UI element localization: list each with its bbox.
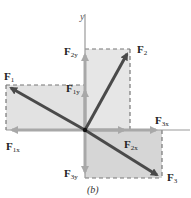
label-f1x: F1x	[6, 141, 20, 154]
label-f3y: F3y	[64, 168, 78, 181]
label-f2: F2	[137, 44, 147, 57]
y-axis-label: y	[80, 12, 84, 22]
origin-point	[83, 128, 87, 132]
force-component-diagram: y F1 F2 F3 F1x F1y F2x F2y F3x F3y (b)	[0, 0, 191, 198]
label-f2y: F2y	[64, 46, 78, 59]
diagram-graphic	[0, 0, 191, 198]
label-f3x: F3x	[155, 115, 169, 128]
figure-caption: (b)	[87, 185, 99, 195]
label-f1: F1	[4, 71, 14, 84]
label-f1y: F1y	[66, 83, 80, 96]
label-f3: F3	[167, 172, 177, 185]
label-f2x: F2x	[124, 139, 138, 152]
